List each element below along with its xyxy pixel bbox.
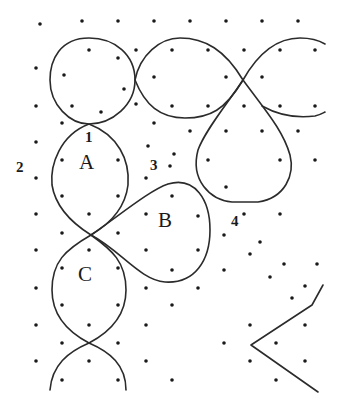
lattice-dot: [278, 48, 282, 52]
lattice-dot: [170, 378, 174, 382]
lattice-dot: [80, 19, 84, 23]
lattice-dot: [278, 104, 282, 108]
region-label-c: C: [78, 264, 92, 285]
lattice-dot: [168, 164, 172, 168]
lattice-dot: [60, 341, 64, 345]
lattice-dot: [242, 48, 246, 52]
lattice-dot: [60, 231, 64, 235]
lattice-dot: [60, 378, 64, 382]
lattice-dot: [258, 240, 262, 244]
lattice-dot: [60, 121, 64, 125]
point-label-1: 1: [85, 130, 93, 145]
lattice-dot: [134, 48, 138, 52]
lattice-dot: [144, 212, 148, 216]
lattice-dot: [70, 104, 74, 108]
lattice-dot: [144, 323, 148, 327]
lattice-dot: [34, 140, 38, 144]
lattice-dot: [260, 19, 264, 23]
lattice-dot: [170, 303, 174, 307]
lattice-dot: [116, 303, 120, 307]
lattice-dot: [224, 75, 228, 79]
lattice-dot: [222, 268, 226, 272]
lattice-dot: [242, 104, 246, 108]
lattice-dot: [224, 185, 228, 189]
lattice-dot: [116, 19, 120, 23]
lattice-dot: [122, 87, 126, 91]
lattice-dot: [170, 268, 174, 272]
lattice-dot: [303, 284, 307, 288]
curve-layer: [50, 38, 325, 392]
lattice-dot: [34, 359, 38, 363]
lattice-dot: [34, 176, 38, 180]
lattice-dot: [144, 359, 148, 363]
point-label-2: 2: [16, 160, 24, 175]
lattice-dot: [146, 144, 150, 148]
lattice-dot: [152, 75, 156, 79]
lattice-dot: [222, 341, 226, 345]
lattice-dot: [290, 296, 294, 300]
lattice-dot: [224, 129, 228, 133]
lattice-dot: [99, 110, 103, 114]
curve-top-right-arc-upper: [243, 38, 325, 80]
lattice-dot: [260, 75, 264, 79]
lattice-dot: [274, 341, 278, 345]
lattice-dot: [116, 56, 120, 60]
diagram-canvas: [0, 0, 345, 411]
lattice-dot: [34, 104, 38, 108]
lattice-dot: [116, 341, 120, 345]
lattice-dot: [296, 129, 300, 133]
lattice-dot: [116, 158, 120, 162]
lattice-dot: [224, 19, 228, 23]
lattice-dot: [206, 104, 210, 108]
point-label-3: 3: [150, 158, 158, 173]
lattice-dot: [38, 22, 42, 26]
lattice-dot: [248, 252, 252, 256]
curve-teardrop-right: [196, 80, 291, 202]
region-label-a: A: [79, 152, 94, 173]
lattice-dot: [144, 176, 148, 180]
region-label-b: B: [158, 210, 172, 231]
lattice-dot: [62, 73, 66, 77]
point-label-4: 4: [231, 214, 239, 229]
lattice-dot: [196, 286, 200, 290]
lattice-dot: [170, 104, 174, 108]
lattice-dot: [242, 212, 246, 216]
lattice-dot: [248, 359, 252, 363]
lattice-dot: [34, 66, 38, 70]
lattice-dot: [206, 158, 210, 162]
lattice-dot: [144, 248, 148, 252]
lattice-dot: [313, 158, 317, 162]
lattice-dot: [170, 48, 174, 52]
lattice-dot: [87, 48, 91, 52]
curve-chevron: [251, 285, 323, 392]
lattice-dot: [188, 129, 192, 133]
lattice-dot: [60, 303, 64, 307]
lattice-dot: [222, 233, 226, 237]
lattice-dot: [170, 194, 174, 198]
lattice-dot: [116, 378, 120, 382]
lattice-dot: [196, 214, 200, 218]
curve-bottom-arcs: [50, 343, 126, 390]
lattice-dot: [278, 212, 282, 216]
lattice-dot: [152, 19, 156, 23]
lattice-dot: [34, 212, 38, 216]
lattice-dot: [303, 359, 307, 363]
lattice-dot: [282, 262, 286, 266]
lattice-dot: [34, 248, 38, 252]
lattice-dot: [60, 266, 64, 270]
lattice-dot: [278, 158, 282, 162]
lattice-dot: [274, 378, 278, 382]
curve-teardrop-B: [91, 182, 210, 282]
lattice-dot: [296, 19, 300, 23]
lattice-dot: [116, 266, 120, 270]
lattice-dot: [116, 231, 120, 235]
lattice-dot: [260, 129, 264, 133]
lattice-dot: [87, 212, 91, 216]
lattice-dot: [144, 286, 148, 290]
lattice-dot: [188, 19, 192, 23]
lattice-dot: [152, 121, 156, 125]
dot-lattice: [34, 19, 319, 382]
lattice-dot: [206, 48, 210, 52]
lattice-dot: [60, 158, 64, 162]
lattice-dot: [196, 248, 200, 252]
